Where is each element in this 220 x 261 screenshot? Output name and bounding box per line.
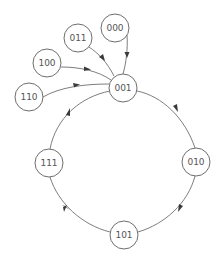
node-label: 100 xyxy=(38,58,55,68)
node-111[interactable]: 111 xyxy=(35,149,63,177)
edge-101-to-111 xyxy=(50,177,110,232)
arrow-icon xyxy=(125,52,130,58)
node-label: 001 xyxy=(114,83,131,93)
node-label: 101 xyxy=(115,230,132,240)
node-label: 110 xyxy=(20,92,37,102)
node-011[interactable]: 011 xyxy=(64,24,92,52)
node-010[interactable]: 010 xyxy=(182,148,210,176)
node-label: 011 xyxy=(69,33,86,43)
node-101[interactable]: 101 xyxy=(110,221,138,249)
arrow-icon xyxy=(173,104,178,112)
arrow-icon xyxy=(178,204,183,212)
arrow-icon xyxy=(99,54,105,61)
node-110[interactable]: 110 xyxy=(15,83,43,111)
arrow-icon xyxy=(66,108,70,116)
edge-001-to-010 xyxy=(137,91,195,148)
edge-111-to-001 xyxy=(50,91,110,149)
node-label: 010 xyxy=(187,157,204,167)
node-label: 111 xyxy=(40,158,57,168)
node-000[interactable]: 000 xyxy=(101,14,129,42)
edge-010-to-101 xyxy=(138,176,195,232)
node-label: 000 xyxy=(106,23,123,33)
state-diagram: 000 011 100 110 001 010 101 111 xyxy=(0,0,220,261)
arrow-icon xyxy=(73,83,80,88)
node-001[interactable]: 001 xyxy=(109,74,137,102)
node-100[interactable]: 100 xyxy=(33,49,61,77)
nodes: 000 011 100 110 001 010 101 111 xyxy=(15,14,210,249)
edges xyxy=(43,35,195,232)
